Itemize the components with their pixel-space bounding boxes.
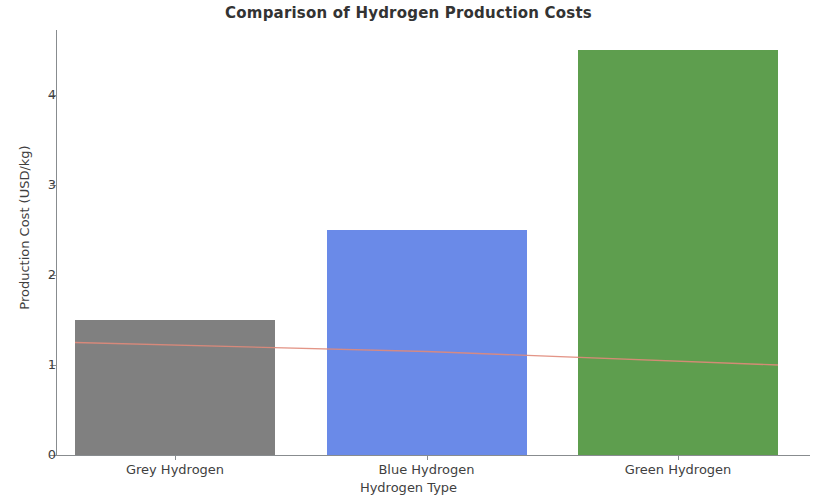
x-tick-mark [175,455,176,460]
bar-grey-hydrogen [75,320,275,455]
bar-blue-hydrogen [327,230,527,455]
x-tick-label-green-hydrogen: Green Hydrogen [568,462,788,477]
bars-layer [0,0,817,455]
x-axis-spine [56,455,810,456]
x-tick-mark [427,455,428,460]
x-tick-label-grey-hydrogen: Grey Hydrogen [65,462,285,477]
x-tick-mark [678,455,679,460]
bar-series-production-cost [0,0,817,455]
bar-green-hydrogen [578,50,778,455]
chart-figure: Comparison of Hydrogen Production Costs … [0,0,817,495]
x-axis-title: Hydrogen Type [0,480,817,495]
x-tick-label-blue-hydrogen: Blue Hydrogen [317,462,537,477]
